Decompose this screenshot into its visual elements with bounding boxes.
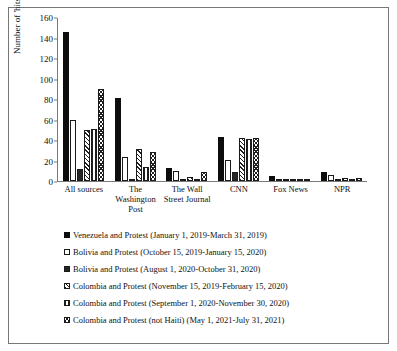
bar-group [161, 18, 213, 181]
bar[interactable] [239, 138, 245, 181]
x-axis-label: The Wall Street Journal [161, 184, 213, 214]
y-tick-label: 160 [40, 14, 54, 23]
bar[interactable] [328, 175, 334, 181]
legend-item[interactable]: Colombia and Protest (not Haiti) (May 1,… [64, 311, 364, 328]
plot-area: 020406080100120140160 [57, 18, 367, 182]
bar[interactable] [321, 172, 327, 181]
bar[interactable] [225, 160, 231, 181]
bar-group [264, 18, 316, 181]
y-tick-mark [54, 59, 57, 60]
y-tick-mark [54, 18, 57, 19]
legend-label: Colombia and Protest (November 15, 2019-… [73, 281, 288, 291]
y-tick-label: 0 [49, 178, 54, 187]
legend-item[interactable]: Venezuela and Protest (January 1, 2019-M… [64, 226, 364, 243]
bar[interactable] [290, 179, 296, 181]
y-tick-label: 40 [44, 137, 53, 146]
bar[interactable] [136, 149, 142, 181]
y-tick-mark [54, 120, 57, 121]
legend-label: Colombia and Protest (September 1, 2020-… [73, 298, 289, 308]
y-tick-label: 60 [44, 116, 53, 125]
bar[interactable] [63, 32, 69, 181]
bar[interactable] [349, 179, 355, 181]
x-axis-label: NPR [316, 184, 368, 214]
bar[interactable] [91, 129, 97, 181]
bar[interactable] [356, 178, 362, 181]
legend-item[interactable]: Bolivia and Protest (August 1, 2020-Octo… [64, 260, 364, 277]
legend-label: Bolivia and Protest (August 1, 2020-Octo… [73, 264, 260, 274]
bar[interactable] [129, 179, 135, 181]
bar-groups [58, 18, 367, 181]
legend-swatch-icon [64, 249, 70, 255]
y-tick-label: 20 [44, 157, 53, 166]
bar[interactable] [269, 176, 275, 181]
legend-label: Colombia and Protest (not Haiti) (May 1,… [73, 315, 284, 325]
y-tick-label: 140 [40, 34, 54, 43]
plot-inner: 020406080100120140160 [57, 18, 367, 182]
bar[interactable] [335, 179, 341, 181]
bar[interactable] [150, 152, 156, 181]
bar[interactable] [232, 172, 238, 181]
y-axis-title: Number of 'hits' [12, 0, 22, 54]
legend-item[interactable]: Colombia and Protest (September 1, 2020-… [64, 294, 364, 311]
y-tick-label: 120 [40, 55, 54, 64]
legend-swatch-icon [64, 266, 70, 272]
bar[interactable] [201, 172, 207, 181]
y-tick-mark [54, 182, 57, 183]
y-tick-label: 100 [40, 75, 54, 84]
x-axis-label: All sources [58, 184, 110, 214]
bar[interactable] [246, 139, 252, 181]
bar-group [316, 18, 368, 181]
x-axis-label: Fox News [265, 184, 317, 214]
y-tick-mark [54, 141, 57, 142]
y-tick-mark [54, 100, 57, 101]
x-axis-line [57, 181, 367, 182]
bar-group [110, 18, 162, 181]
y-tick-mark [54, 79, 57, 80]
y-tick-mark [54, 38, 57, 39]
y-tick-label: 80 [44, 96, 53, 105]
bar[interactable] [98, 89, 104, 181]
bar[interactable] [253, 138, 259, 181]
legend-label: Venezuela and Protest (January 1, 2019-M… [73, 230, 267, 240]
bar[interactable] [304, 179, 310, 181]
bar[interactable] [173, 171, 179, 181]
bar[interactable] [77, 169, 83, 181]
bar[interactable] [297, 179, 303, 181]
bar[interactable] [166, 168, 172, 181]
bar[interactable] [70, 120, 76, 181]
bar[interactable] [342, 178, 348, 181]
bar[interactable] [143, 167, 149, 181]
bar[interactable] [122, 157, 128, 181]
legend-item[interactable]: Colombia and Protest (November 15, 2019-… [64, 277, 364, 294]
bar-group [58, 18, 110, 181]
y-tick-mark [54, 161, 57, 162]
bar[interactable] [276, 179, 282, 181]
x-axis-label: The Washington Post [110, 184, 162, 214]
legend-swatch-icon [64, 232, 70, 238]
legend-item[interactable]: Bolivia and Protest (October 15, 2019-Ja… [64, 243, 364, 260]
chart-legend: Venezuela and Protest (January 1, 2019-M… [64, 226, 364, 328]
bar[interactable] [218, 137, 224, 181]
x-axis-labels: All sourcesThe Washington PostThe Wall S… [58, 184, 368, 214]
bar[interactable] [84, 130, 90, 181]
bar[interactable] [115, 98, 121, 181]
bar[interactable] [283, 179, 289, 181]
legend-swatch-icon [64, 317, 70, 323]
bar-group [213, 18, 265, 181]
bar[interactable] [194, 179, 200, 181]
x-axis-label: CNN [213, 184, 265, 214]
legend-swatch-icon [64, 300, 70, 306]
bar[interactable] [180, 179, 186, 181]
chart-figure: Number of 'hits' 020406080100120140160 A… [0, 0, 397, 351]
legend-label: Bolivia and Protest (October 15, 2019-Ja… [73, 247, 266, 257]
legend-swatch-icon [64, 283, 70, 289]
bar[interactable] [187, 177, 193, 181]
